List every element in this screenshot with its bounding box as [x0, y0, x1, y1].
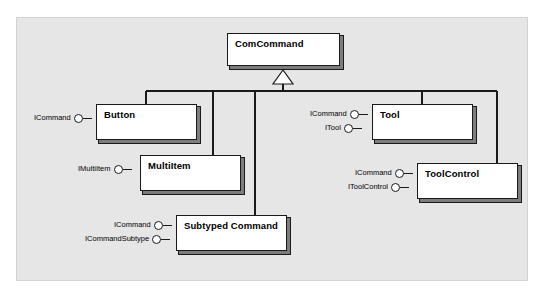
interface-ball-icon [154, 221, 163, 230]
interface-lollipop-toolcontrol-itoolcontrol[interactable]: IToolControl [348, 181, 409, 193]
class-name-multiitem: MultiItem [148, 160, 191, 171]
interface-ball-icon [114, 165, 123, 174]
interface-lollipop-subtyped-icommandsubtype[interactable]: ICommandSubtype [85, 233, 170, 245]
interface-label: IToolControl [348, 181, 391, 193]
interface-label: ITool [325, 122, 344, 134]
interface-label: ICommand [34, 112, 74, 124]
interface-lollipop-subtyped-icommand[interactable]: ICommand [114, 219, 172, 231]
interface-label: ICommand [355, 167, 395, 179]
interface-lollipop-tool-itool[interactable]: ITool [325, 122, 362, 134]
interface-label: ICommand [310, 108, 350, 120]
interface-lollipop-multiitem-imultiitem[interactable]: IMultiItem [78, 163, 132, 175]
class-box-comcommand[interactable]: ComCommand [227, 33, 340, 66]
interface-ball-icon [391, 183, 400, 192]
class-name-button: Button [104, 109, 135, 120]
interface-stem [404, 173, 413, 174]
interface-lollipop-tool-icommand[interactable]: ICommand [310, 108, 368, 120]
class-box-multiitem[interactable]: MultiItem [140, 155, 241, 191]
interface-stem [400, 187, 409, 188]
interface-ball-icon [152, 235, 161, 244]
interface-label: ICommandSubtype [85, 233, 152, 245]
diagram-canvas: ComCommand Button ICommand Tool ICommand… [0, 0, 547, 299]
class-box-button[interactable]: Button [96, 104, 197, 140]
interface-stem [353, 128, 362, 129]
interface-ball-icon [395, 169, 404, 178]
class-name-comcommand: ComCommand [235, 38, 304, 49]
interface-ball-icon [350, 110, 359, 119]
interface-lollipop-button-icommand[interactable]: ICommand [34, 112, 92, 124]
interface-ball-icon [74, 114, 83, 123]
class-name-toolcontrol: ToolControl [425, 168, 479, 179]
class-name-subtyped-command: Subtyped Command [184, 220, 278, 231]
interface-label: IMultiItem [78, 163, 114, 175]
class-box-subtyped-command[interactable]: Subtyped Command [176, 215, 287, 251]
interface-stem [83, 118, 92, 119]
interface-lollipop-toolcontrol-icommand[interactable]: ICommand [355, 167, 413, 179]
interface-stem [163, 225, 172, 226]
interface-stem [359, 114, 368, 115]
class-box-tool[interactable]: Tool [372, 104, 473, 140]
interface-label: ICommand [114, 219, 154, 231]
interface-ball-icon [344, 124, 353, 133]
class-name-tool: Tool [380, 109, 400, 120]
class-box-toolcontrol[interactable]: ToolControl [417, 163, 518, 199]
interface-stem [123, 169, 132, 170]
interface-stem [161, 239, 170, 240]
